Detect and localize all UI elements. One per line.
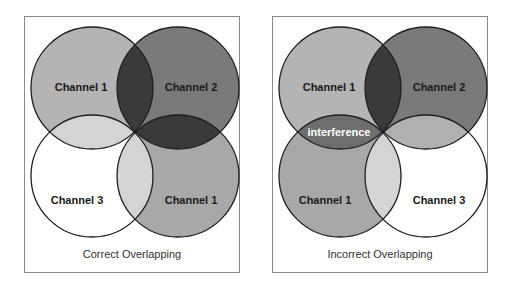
label-top-right: Channel 2	[165, 81, 218, 93]
incorrect-overlapping-panel: Channel 1 Channel 2 Channel 1 Channel 3 …	[272, 16, 488, 273]
incorrect-overlapping-diagram: Channel 1 Channel 2 Channel 1 Channel 3 …	[273, 17, 489, 274]
correct-overlapping-diagram: Channel 1 Channel 2 Channel 3 Channel 1	[25, 17, 241, 274]
label-top-left: Channel 1	[303, 81, 356, 93]
label-top-right: Channel 2	[413, 81, 466, 93]
label-bottom-left: Channel 1	[299, 194, 352, 206]
caption-correct: Correct Overlapping	[25, 248, 239, 260]
label-bottom-right: Channel 3	[413, 194, 466, 206]
label-bottom-left: Channel 3	[51, 194, 104, 206]
label-bottom-right: Channel 1	[165, 194, 218, 206]
label-top-left: Channel 1	[55, 81, 108, 93]
label-interference: interference	[308, 126, 371, 138]
correct-overlapping-panel: Channel 1 Channel 2 Channel 3 Channel 1 …	[24, 16, 240, 273]
caption-incorrect: Incorrect Overlapping	[273, 248, 487, 260]
